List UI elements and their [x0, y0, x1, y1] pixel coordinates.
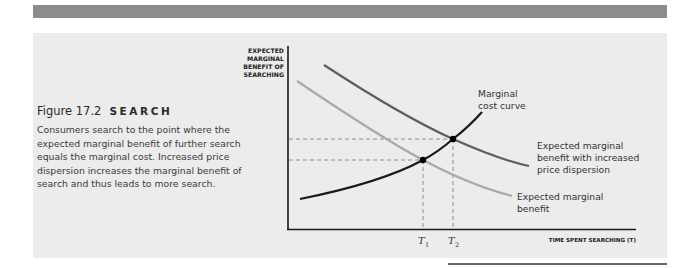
svg-text:Marginal: Marginal	[478, 88, 518, 99]
y-axis-label: EXPECTED MARGINAL BENEFIT OF SEARCHING	[243, 47, 284, 78]
svg-text:BENEFIT OF: BENEFIT OF	[243, 63, 284, 70]
svg-text:Expected marginal: Expected marginal	[537, 140, 623, 151]
dashed-guides	[289, 139, 453, 229]
svg-text:cost curve: cost curve	[478, 100, 526, 111]
equilibrium-point-t2	[450, 136, 456, 142]
svg-text:benefit: benefit	[517, 203, 550, 214]
search-chart: EXPECTED MARGINAL BENEFIT OF SEARCHING M…	[0, 0, 681, 268]
svg-text:1: 1	[425, 241, 429, 249]
svg-text:MARGINAL: MARGINAL	[247, 55, 284, 62]
increased-dispersion-label: Expected marginal benefit with increased…	[537, 140, 639, 175]
svg-text:EXPECTED: EXPECTED	[248, 47, 284, 54]
tick-t1: T 1	[418, 235, 429, 249]
svg-text:benefit with increased: benefit with increased	[537, 152, 639, 163]
expected-marginal-benefit-label: Expected marginal benefit	[517, 191, 603, 214]
svg-text:price dispersion: price dispersion	[537, 164, 610, 175]
x-axis-label: TIME SPENT SEARCHING (T)	[549, 237, 637, 243]
svg-text:Expected marginal: Expected marginal	[517, 191, 603, 202]
increased-dispersion-curve	[324, 65, 529, 166]
tick-t2: T 2	[448, 235, 459, 249]
marginal-cost-curve	[300, 112, 482, 199]
svg-text:2: 2	[455, 241, 459, 249]
marginal-cost-label: Marginal cost curve	[478, 88, 526, 111]
equilibrium-point-t1	[420, 157, 426, 163]
svg-text:SEARCHING: SEARCHING	[243, 71, 284, 78]
